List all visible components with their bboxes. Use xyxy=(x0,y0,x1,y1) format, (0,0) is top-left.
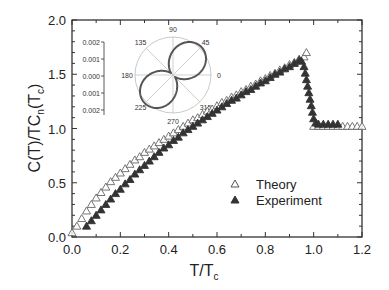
open-triangle-marker xyxy=(302,49,310,56)
inset-polar-plot: 045901351802252703150.0020.0010.0000.001… xyxy=(82,26,221,125)
legend-label-experiment: Experiment xyxy=(256,193,322,208)
y-axis-title: C(T)/TCn(Tc) xyxy=(26,84,46,173)
x-tick-label: 1.0 xyxy=(305,242,323,257)
filled-triangle-marker xyxy=(308,108,316,115)
inset-radial-label: 0.002 xyxy=(82,107,100,114)
y-tick-label: 2.0 xyxy=(48,13,66,28)
polar-angle-label: 135 xyxy=(135,39,147,46)
legend: Theory Experiment xyxy=(231,177,322,208)
x-tick-label: 1.2 xyxy=(353,242,371,257)
y-tick-label: 0.5 xyxy=(48,176,66,191)
open-triangle-marker xyxy=(87,200,95,207)
open-triangle-marker xyxy=(83,207,91,214)
polar-angle-label: 0 xyxy=(217,72,221,79)
open-triangle-icon xyxy=(231,180,239,187)
plot-axes: 0.00.20.40.60.81.01.20.00.51.01.52.0 xyxy=(48,13,371,257)
x-tick-label: 0.4 xyxy=(160,242,178,257)
legend-item-theory: Theory xyxy=(231,177,297,192)
y-tick-label: 0.0 xyxy=(48,230,66,245)
polar-angle-label: 180 xyxy=(121,72,133,79)
filled-triangle-marker xyxy=(302,76,310,83)
open-triangle-marker xyxy=(78,215,86,222)
x-axis-title: T/Tc xyxy=(190,262,219,282)
filled-triangle-marker xyxy=(304,82,312,89)
filled-triangle-marker xyxy=(306,95,314,102)
inset-radial-label: 0.000 xyxy=(82,73,100,80)
y-tick-label: 1.0 xyxy=(48,122,66,137)
inset-radial-label: 0.001 xyxy=(82,90,100,97)
polar-angle-label: 270 xyxy=(167,118,179,125)
inset-radial-label: 0.001 xyxy=(82,56,100,63)
filled-triangle-marker xyxy=(305,89,313,96)
inset-radial-label: 0.002 xyxy=(82,39,100,46)
polar-angle-label: 45 xyxy=(202,39,210,46)
legend-item-experiment: Experiment xyxy=(231,193,322,208)
y-tick-label: 1.5 xyxy=(48,67,66,82)
filled-triangle-marker xyxy=(301,69,309,76)
x-tick-label: 0.8 xyxy=(256,242,274,257)
filled-triangle-marker xyxy=(307,102,315,109)
chart: 045901351802252703150.0020.0010.0000.001… xyxy=(0,0,389,290)
polar-angle-label: 90 xyxy=(169,26,177,33)
open-triangle-marker xyxy=(68,229,76,236)
x-tick-label: 0.6 xyxy=(208,242,226,257)
filled-triangle-icon xyxy=(231,196,239,203)
polar-angle-label: 225 xyxy=(135,104,147,111)
legend-label-theory: Theory xyxy=(256,177,297,192)
x-tick-label: 0.2 xyxy=(111,242,129,257)
